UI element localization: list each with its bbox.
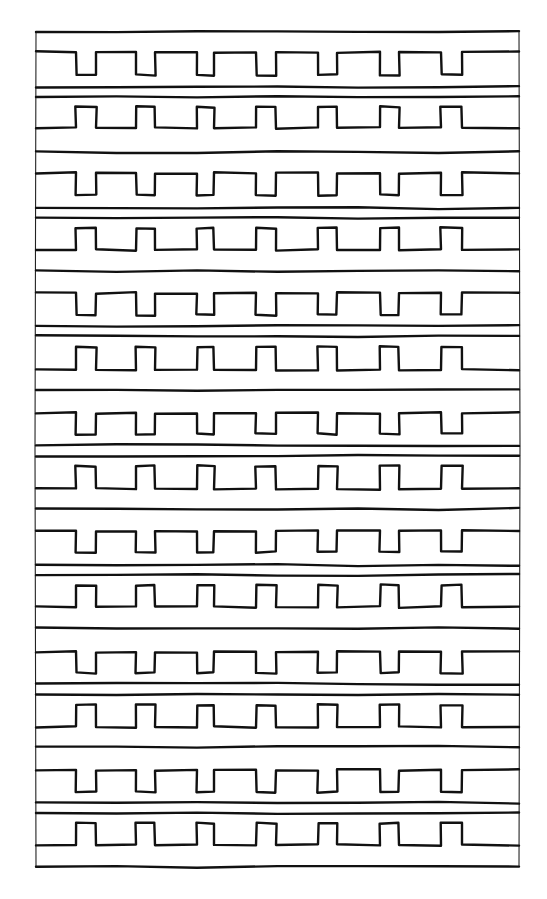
separator-line — [36, 455, 519, 457]
separator-line — [36, 96, 519, 97]
wave-row-down-notch — [36, 651, 519, 673]
separator-line — [36, 574, 519, 576]
frame-left-edge — [35, 32, 36, 867]
wave-row-down-notch — [36, 769, 519, 793]
wave-row-down-notch — [36, 172, 519, 196]
separator-line — [36, 866, 519, 868]
wave-row-down-notch — [36, 292, 519, 316]
separator-line — [36, 389, 519, 390]
separator-line — [36, 746, 519, 748]
separator-line — [36, 508, 519, 510]
separator-line — [36, 217, 519, 218]
wave-row-up-tab — [36, 584, 519, 608]
wave-row-down-notch — [36, 530, 519, 553]
separator-line — [36, 627, 519, 628]
separator-line — [36, 86, 519, 88]
square-wave-band-drawing — [0, 0, 547, 899]
separator-line — [36, 683, 519, 685]
separator-line — [36, 694, 519, 695]
separator-line — [36, 151, 519, 153]
wave-row-up-tab — [36, 465, 519, 490]
separator-line — [36, 335, 519, 337]
separator-line — [36, 207, 519, 209]
separator-line — [36, 325, 519, 327]
wave-row-down-notch — [36, 412, 519, 435]
wave-row-up-tab — [36, 106, 519, 128]
outer-frame — [35, 32, 520, 867]
square-wave-rows — [36, 51, 519, 845]
separator-line — [36, 813, 519, 814]
separator-lines — [36, 31, 519, 868]
wave-row-up-tab — [36, 227, 519, 251]
separator-line — [36, 802, 519, 804]
wave-row-up-tab — [36, 823, 519, 846]
separator-line — [36, 564, 519, 566]
frame-right-edge — [519, 32, 520, 867]
wave-row-down-notch — [36, 51, 519, 75]
separator-line — [36, 31, 519, 32]
wave-row-up-tab — [36, 346, 519, 370]
separator-line — [36, 270, 519, 272]
separator-line — [36, 444, 519, 446]
wave-row-up-tab — [36, 704, 519, 728]
